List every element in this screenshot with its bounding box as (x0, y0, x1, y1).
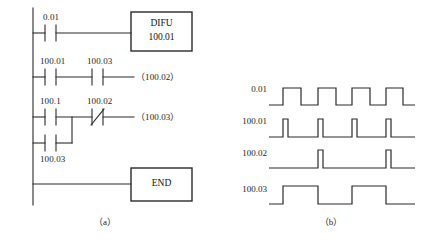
waveform-100-02 (269, 150, 415, 168)
contact-label-rung3-branch-100-03: 100.03 (40, 154, 65, 164)
contact-label-rung3-100-02: 100.02 (87, 96, 112, 106)
figure-root: 0.01 100.01 100.03 100.1 100.02 100.03 D… (0, 0, 423, 242)
contact-label-rung3-100-1: 100.1 (40, 96, 61, 106)
signal-label-100-01: 100.01 (211, 116, 267, 126)
coil-label-100-03: （100.03） (136, 112, 180, 122)
timing-chart-panel: 0.01 100.01 100.02 100.03 （b） (211, 0, 423, 242)
contact-label-rung1-0-01: 0.01 (43, 12, 59, 22)
contact-label-rung2-100-03: 100.03 (87, 56, 112, 66)
waveform-0-01 (269, 88, 415, 105)
difu-box-line1: DIFU (131, 18, 192, 29)
end-box-line1: END (131, 178, 192, 189)
contact-label-rung2-100-01: 100.01 (40, 56, 65, 66)
difu-box-line2: 100.01 (131, 32, 192, 43)
ladder-diagram-panel: 0.01 100.01 100.03 100.1 100.02 100.03 D… (0, 0, 212, 242)
rung-3-nc-contact-slash (91, 109, 104, 125)
signal-label-0-01: 0.01 (215, 84, 267, 94)
caption-a: （a） (60, 215, 150, 228)
signal-label-100-02: 100.02 (211, 148, 267, 158)
waveform-100-03 (269, 186, 415, 204)
signal-label-100-03: 100.03 (211, 184, 267, 194)
waveform-100-01 (269, 119, 415, 137)
caption-b: （b） (286, 215, 376, 228)
coil-label-100-02: （100.02） (136, 72, 180, 82)
